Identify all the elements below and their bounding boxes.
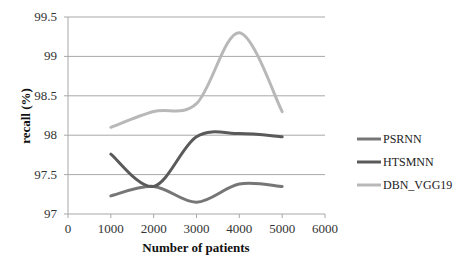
x-tick-label: 2000: [141, 221, 167, 236]
y-tick-label: 97: [44, 206, 58, 221]
x-tick-label: 4000: [226, 221, 252, 236]
legend-item-htsmnn: HTSMNN: [357, 155, 434, 169]
x-axis: 0100020003000400050006000: [65, 214, 338, 236]
legend-item-dbn-vgg19: DBN_VGG19: [357, 178, 452, 192]
y-axis: 9797.59898.59999.5: [34, 9, 68, 221]
x-tick-label: 0: [65, 221, 72, 236]
data-series: [111, 33, 282, 202]
legend-label: HTSMNN: [383, 155, 434, 169]
y-tick-label: 98: [44, 127, 57, 142]
y-tick-label: 97.5: [34, 167, 57, 182]
y-tick-label: 98.5: [34, 88, 57, 103]
y-axis-title: recall (%): [18, 88, 33, 144]
y-tick-label: 99.5: [34, 9, 57, 24]
legend-item-psrnn: PSRNN: [357, 132, 422, 146]
x-tick-label: 1000: [98, 221, 124, 236]
x-tick-label: 3000: [184, 221, 210, 236]
legend-label: DBN_VGG19: [383, 178, 452, 192]
series-line-dbn-vgg19: [111, 33, 282, 128]
legend: PSRNNHTSMNNDBN_VGG19: [357, 132, 452, 192]
x-tick-label: 6000: [312, 221, 338, 236]
y-tick-label: 99: [44, 48, 57, 63]
series-line-psrnn: [111, 183, 282, 202]
line-chart: 9797.59898.59999.5 010002000300040005000…: [0, 0, 466, 263]
x-axis-title: Number of patients: [142, 240, 249, 255]
series-line-htsmnn: [111, 132, 282, 187]
x-tick-label: 5000: [269, 221, 295, 236]
gridlines: [68, 17, 325, 175]
legend-label: PSRNN: [383, 132, 422, 146]
